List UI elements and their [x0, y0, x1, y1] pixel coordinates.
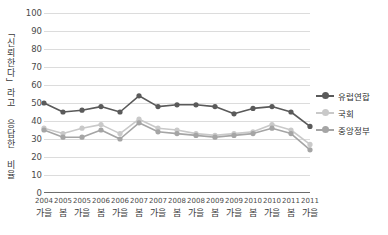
data-point: [155, 129, 160, 134]
data-point: [60, 135, 65, 140]
data-point: [41, 127, 46, 132]
legend-swatch-icon: [316, 124, 334, 135]
data-point: [98, 127, 103, 132]
legend-item[interactable]: 유럽연합: [316, 88, 388, 103]
data-point: [79, 108, 84, 113]
data-point: [288, 109, 293, 114]
y-tick-label: 20: [16, 152, 42, 162]
legend-label: 중앙정부: [338, 124, 370, 136]
data-point: [136, 120, 141, 125]
data-point: [193, 102, 198, 107]
x-tick-label: 2011가을: [295, 196, 325, 220]
y-tick-label: 30: [16, 134, 42, 144]
data-point: [117, 136, 122, 141]
data-point: [117, 131, 122, 136]
data-point: [212, 104, 217, 109]
data-point: [136, 93, 141, 98]
data-point: [250, 131, 255, 136]
data-point: [79, 126, 84, 131]
y-tick-label: 50: [16, 98, 42, 108]
data-point: [155, 104, 160, 109]
data-point: [269, 104, 274, 109]
data-point: [174, 102, 179, 107]
data-point: [307, 147, 312, 152]
data-point: [41, 100, 46, 105]
x-axis-labels: 2004가을2005봄2005가을2006봄2006가을2007봄2007가을2…: [44, 196, 310, 234]
plot-area: [44, 13, 310, 193]
data-point: [307, 142, 312, 147]
data-point: [117, 109, 122, 114]
y-tick-label: 10: [16, 170, 42, 180]
data-point: [288, 131, 293, 136]
x-tick-year: 2011: [295, 196, 325, 206]
data-point: [98, 104, 103, 109]
data-point: [193, 133, 198, 138]
data-point: [212, 135, 217, 140]
y-tick-label: 40: [16, 116, 42, 126]
legend-item[interactable]: 중앙정부: [316, 122, 388, 137]
data-point: [60, 109, 65, 114]
data-point: [174, 131, 179, 136]
y-tick-label: 90: [16, 26, 42, 36]
legend: 유럽연합국회중앙정부: [316, 88, 388, 139]
y-tick-label: 80: [16, 44, 42, 54]
data-point: [231, 111, 236, 116]
y-tick-label: 100: [16, 8, 42, 18]
data-point: [98, 122, 103, 127]
legend-swatch-icon: [316, 90, 334, 101]
legend-label: 국회: [338, 107, 354, 119]
series-layer: [44, 13, 310, 193]
data-point: [79, 135, 84, 140]
y-tick-label: 60: [16, 80, 42, 90]
x-axis-line: [44, 192, 310, 194]
data-point: [307, 124, 312, 129]
data-point: [269, 126, 274, 131]
data-point: [231, 133, 236, 138]
x-tick-season: 가을: [295, 207, 325, 220]
legend-item[interactable]: 국회: [316, 105, 388, 120]
legend-swatch-icon: [316, 107, 334, 118]
legend-label: 유럽연합: [338, 90, 370, 102]
data-point: [250, 106, 255, 111]
y-tick-label: 70: [16, 62, 42, 72]
line-chart: 「신뢰한다」라고 응답한 비율 0102030405060708090100 2…: [0, 0, 388, 235]
